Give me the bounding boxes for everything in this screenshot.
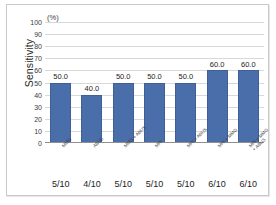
bar xyxy=(113,83,134,144)
category-label-slot: MRI + MMG xyxy=(201,144,232,178)
y-axis-tick-label: 90 xyxy=(34,31,42,38)
fraction-value: 6/10 xyxy=(233,179,264,189)
fraction-value: 6/10 xyxy=(201,179,232,189)
bar-value-label: 50.0 xyxy=(147,73,162,81)
x-axis-category-labels: MMGABUSMMG + ABUSMRIMRI + ABUSMRI + MMGM… xyxy=(45,144,264,178)
y-axis-tick-label: 20 xyxy=(34,115,42,122)
bar xyxy=(81,95,102,143)
fraction-value: 4/10 xyxy=(76,179,107,189)
bar-slot: 50.0 xyxy=(170,22,201,143)
category-label-slot: MRI + ABUS xyxy=(170,144,201,178)
bar xyxy=(207,70,228,143)
category-label-slot: MMG xyxy=(45,144,76,178)
fraction-value: 5/10 xyxy=(45,179,76,189)
y-axis-tick-label: 10 xyxy=(34,127,42,134)
y-axis-tick-label: 100 xyxy=(30,19,42,26)
bar-slot: 50.0 xyxy=(108,22,139,143)
fraction-value: 5/10 xyxy=(139,179,170,189)
chart-figure: Sensitivity (%) 1009080706050403020100 5… xyxy=(0,0,276,205)
y-axis-title: Sensitivity xyxy=(23,15,35,111)
bar xyxy=(50,83,71,144)
category-label-slot: MMG + ABUS xyxy=(108,144,139,178)
bar-value-label: 50.0 xyxy=(116,73,131,81)
fraction-value: 5/10 xyxy=(170,179,201,189)
bar-slot: 60.0 xyxy=(201,22,232,143)
y-axis-unit-label: (%) xyxy=(47,13,59,22)
y-axis-tick-label: 80 xyxy=(34,43,42,50)
bar xyxy=(238,70,259,143)
y-axis-tick-label: 60 xyxy=(34,67,42,74)
plot-area: 1009080706050403020100 50.040.050.050.05… xyxy=(45,22,264,143)
bar-value-label: 50.0 xyxy=(53,73,68,81)
category-label-slot: ABUS xyxy=(76,144,107,178)
y-axis-tick-label: 70 xyxy=(34,55,42,62)
bar-slot: 60.0 xyxy=(233,22,264,143)
y-axis-tick-label: 40 xyxy=(34,91,42,98)
bar-slot: 50.0 xyxy=(45,22,76,143)
y-axis-tick-label: 50 xyxy=(34,79,42,86)
y-axis-tick-label: 0 xyxy=(38,140,42,147)
fraction-row: 5/104/105/105/105/106/106/10 xyxy=(45,179,264,189)
bar-slot: 40.0 xyxy=(76,22,107,143)
category-label-slot: MRI + MMG+ ABUS xyxy=(233,144,264,178)
bar xyxy=(144,83,165,144)
bar-series: 50.040.050.050.050.060.060.0 xyxy=(45,22,264,143)
bar-value-label: 60.0 xyxy=(210,61,225,69)
category-label-slot: MRI xyxy=(139,144,170,178)
bar xyxy=(175,83,196,144)
fraction-value: 5/10 xyxy=(108,179,139,189)
bar-value-label: 50.0 xyxy=(178,73,193,81)
bar-value-label: 40.0 xyxy=(85,85,100,93)
y-axis-tick-label: 30 xyxy=(34,103,42,110)
bar-value-label: 60.0 xyxy=(241,61,256,69)
